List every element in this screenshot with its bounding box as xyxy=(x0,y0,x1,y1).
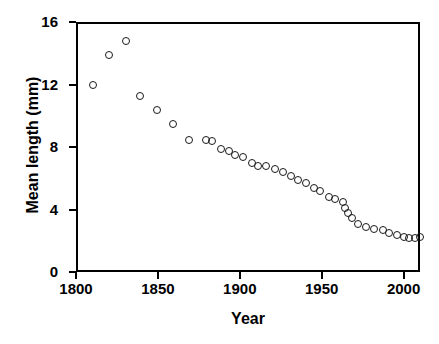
y-tick-12 xyxy=(69,84,76,86)
data-point xyxy=(136,92,144,100)
x-tick-1850 xyxy=(157,272,159,279)
y-tick-16 xyxy=(69,21,76,23)
data-point xyxy=(185,136,193,144)
x-tick-label-1950: 1950 xyxy=(292,281,352,296)
data-point xyxy=(271,165,279,173)
plot-area xyxy=(76,22,420,272)
data-point xyxy=(362,223,370,231)
x-tick-1900 xyxy=(239,272,241,279)
data-point xyxy=(105,51,113,59)
data-point xyxy=(370,225,378,233)
data-point xyxy=(416,233,424,241)
data-point xyxy=(385,229,393,237)
x-tick-2000 xyxy=(403,272,405,279)
x-tick-label-1850: 1850 xyxy=(128,281,188,296)
data-point-layer xyxy=(78,24,418,270)
y-tick-label-4: 4 xyxy=(8,202,58,217)
data-point xyxy=(217,145,225,153)
y-tick-label-0: 0 xyxy=(8,264,58,279)
x-tick-label-1800: 1800 xyxy=(46,281,106,296)
y-tick-label-8: 8 xyxy=(8,139,58,154)
data-point xyxy=(279,168,287,176)
x-tick-1950 xyxy=(321,272,323,279)
data-point xyxy=(354,220,362,228)
data-point xyxy=(262,162,270,170)
x-tick-label-2000: 2000 xyxy=(374,281,434,296)
data-point xyxy=(294,176,302,184)
data-point xyxy=(239,153,247,161)
data-point xyxy=(89,81,97,89)
data-point xyxy=(122,37,130,45)
data-point xyxy=(254,162,262,170)
data-point xyxy=(316,187,324,195)
y-tick-4 xyxy=(69,209,76,211)
x-axis-title: Year xyxy=(76,310,420,328)
scatter-chart-figure: Mean length (mm) Year 0481216 1800185019… xyxy=(0,0,439,344)
data-point xyxy=(169,120,177,128)
data-point xyxy=(302,179,310,187)
data-point xyxy=(208,137,216,145)
y-tick-8 xyxy=(69,146,76,148)
data-point xyxy=(153,106,161,114)
y-tick-label-16: 16 xyxy=(8,14,58,29)
y-tick-label-12: 12 xyxy=(8,77,58,92)
data-point xyxy=(331,195,339,203)
x-tick-1800 xyxy=(75,272,77,279)
data-point xyxy=(231,151,239,159)
x-tick-label-1900: 1900 xyxy=(210,281,270,296)
